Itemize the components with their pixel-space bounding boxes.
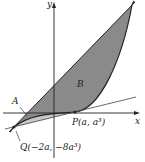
region-b-label: B bbox=[77, 80, 84, 89]
point-q bbox=[13, 126, 16, 129]
x-axis-arrow-icon bbox=[134, 111, 140, 115]
point-p-label: P(a, a³) bbox=[72, 118, 105, 127]
region-a-label: A bbox=[12, 97, 19, 106]
diagram-canvas bbox=[0, 0, 145, 162]
y-axis-arrow-icon bbox=[52, 2, 56, 8]
x-axis-label: x bbox=[135, 117, 140, 126]
label-q-leader bbox=[16, 131, 20, 141]
point-p bbox=[74, 111, 77, 114]
label-a-leader bbox=[20, 107, 27, 116]
y-axis-label: y bbox=[47, 0, 52, 9]
point-q-label: Q(−2a, −8a³) bbox=[20, 143, 81, 152]
